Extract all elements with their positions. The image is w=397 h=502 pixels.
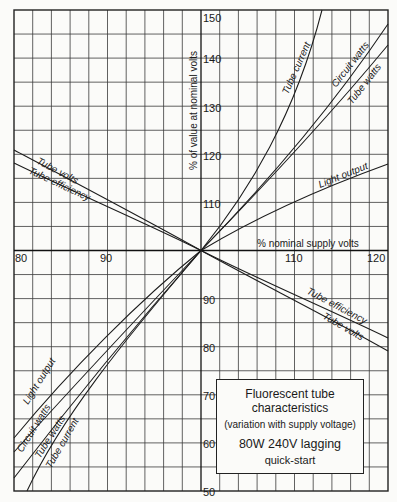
rating-label: 80W 240V lagging <box>217 437 363 451</box>
tick-y-90: 90 <box>203 294 215 306</box>
label-tube-current-upper: Tube current <box>280 39 313 96</box>
tick-y-80: 80 <box>203 342 215 354</box>
title-line-1: Fluorescent tube <box>217 387 363 401</box>
tick-y-70: 70 <box>203 390 215 402</box>
subtitle: (variation with supply voltage) <box>217 418 363 432</box>
tick-y-50: 50 <box>203 486 215 498</box>
title-line-2: characteristics <box>217 401 363 415</box>
tick-y-130: 130 <box>203 102 221 114</box>
x-axis-label: % nominal supply volts <box>257 238 359 249</box>
tick-y-60: 60 <box>203 438 215 450</box>
tick-x-80: 80 <box>15 252 27 264</box>
tick-x-110: 110 <box>285 252 303 264</box>
tick-y-110: 110 <box>203 198 221 210</box>
tick-y-140: 140 <box>203 53 221 65</box>
label-light-output-upper: Light output <box>317 160 371 190</box>
tick-y-150: 150 <box>203 12 221 24</box>
label-light-output-lower: Light output <box>20 355 58 406</box>
fluorescent-tube-chart: 80 90 110 120 150 140 130 120 110 90 80 … <box>0 0 397 502</box>
start-type-label: quick-start <box>217 453 363 467</box>
tick-x-90: 90 <box>100 252 112 264</box>
chart-title-box: Fluorescent tube characteristics (variat… <box>216 379 364 474</box>
tick-x-120: 120 <box>367 252 385 264</box>
tick-y-120: 120 <box>203 150 221 162</box>
y-axis-label: % of value at nominal volts <box>188 51 199 170</box>
